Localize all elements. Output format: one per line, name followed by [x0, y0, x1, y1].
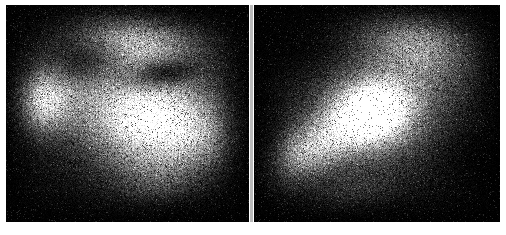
panel-right-image	[254, 5, 500, 222]
figure-container	[0, 0, 506, 235]
panel-right[interactable]	[254, 5, 500, 222]
panel-left[interactable]	[6, 5, 249, 222]
panel-left-image	[6, 5, 249, 222]
panel-divider	[250, 5, 253, 222]
